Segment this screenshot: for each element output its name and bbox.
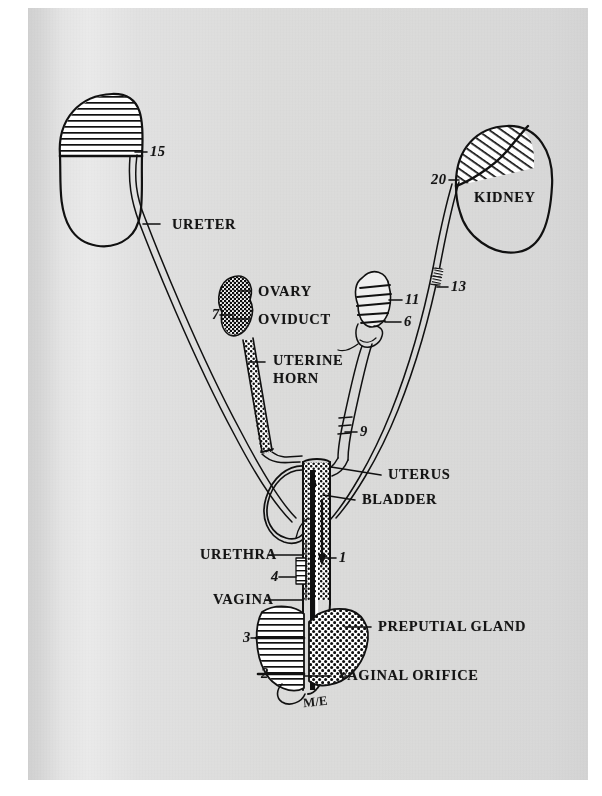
label-uterine-horn: UTERINE	[273, 353, 343, 368]
number-n4: 4	[271, 569, 279, 584]
scanned-page: URETERKIDNEYOVARYOVIDUCTUTERINEHORNUTERU…	[0, 0, 602, 796]
number-n9: 9	[360, 424, 368, 439]
vulva	[252, 600, 308, 704]
left-ovary	[214, 268, 258, 340]
number-n7: 7	[212, 307, 220, 322]
number-n3: 3	[243, 630, 251, 645]
label-ureter: URETER	[172, 217, 236, 232]
number-n13: 13	[451, 279, 467, 294]
number-n6: 6	[404, 314, 412, 329]
number-n20: 20	[431, 172, 447, 187]
right-ovary	[355, 272, 391, 348]
label-uterus: UTERUS	[388, 467, 450, 482]
label-vaginal-orifice: VAGINAL ORIFICE	[338, 668, 478, 683]
label-kidney: KIDNEY	[474, 190, 536, 205]
bladder	[264, 466, 308, 543]
right-kidney	[448, 118, 552, 253]
label-bladder: BLADDER	[362, 492, 437, 507]
label-urethra: URETHRA	[200, 547, 277, 562]
left-kidney	[50, 88, 160, 246]
label-vagina: VAGINA	[213, 592, 274, 607]
label-ovary: OVARY	[258, 284, 312, 299]
number-n11: 11	[405, 292, 420, 307]
label-oviduct: OVIDUCT	[258, 312, 331, 327]
label-preputial-gland: PREPUTIAL GLAND	[378, 619, 526, 634]
label-uterine-horn-2: HORN	[273, 371, 319, 386]
artist-signature: M/E	[302, 693, 328, 711]
number-n2: 2	[261, 666, 269, 681]
number-n15: 15	[150, 144, 166, 159]
left-ureter	[129, 155, 296, 522]
anatomy-figure	[0, 0, 602, 796]
number-n1: 1	[339, 550, 347, 565]
